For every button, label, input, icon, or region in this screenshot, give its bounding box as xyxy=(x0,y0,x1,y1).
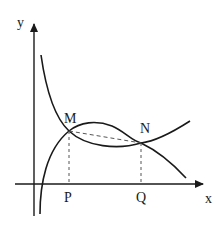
increasing-curve xyxy=(40,121,190,214)
point-n-label: N xyxy=(140,121,150,136)
point-p-label: P xyxy=(64,190,72,205)
point-q-label: Q xyxy=(136,190,146,205)
decreasing-curve xyxy=(41,55,186,178)
point-m-label: M xyxy=(64,111,77,126)
x-axis-label: x xyxy=(205,191,212,206)
function-graph-diagram: y x M N P Q xyxy=(0,0,220,226)
y-axis-label: y xyxy=(17,15,24,30)
